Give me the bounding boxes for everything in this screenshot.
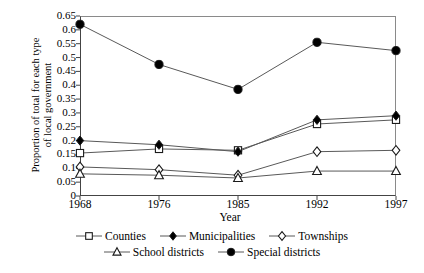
y-tick-label: 0.55: [57, 38, 76, 49]
plot-area: [80, 16, 396, 196]
y-tick-label: 0.5: [62, 52, 76, 63]
data-point-filled-circle: [76, 20, 84, 28]
markers-special-districts: [76, 20, 400, 93]
x-tick-label: 1997: [385, 198, 408, 210]
data-point-open-triangle: [313, 166, 322, 174]
series-layer: [80, 16, 396, 196]
legend-label: Special districts: [247, 246, 320, 258]
data-point-open-triangle: [76, 169, 85, 177]
data-point-open-diamond: [313, 147, 321, 157]
legend-label: Townships: [298, 230, 348, 242]
data-point-open-diamond: [279, 232, 286, 241]
data-point-open-diamond: [392, 146, 400, 156]
legend-row-1: CountiesMunicipalitiesTownships: [0, 228, 424, 244]
data-point-filled-circle: [392, 47, 400, 55]
legend-item-municipalities[interactable]: Municipalities: [160, 230, 255, 242]
x-tick-label: 1976: [148, 198, 171, 210]
y-axis-title: Proportion of total for each type of loc…: [0, 0, 32, 210]
series-special-districts: [80, 24, 396, 89]
legend-marker-icon: [104, 246, 130, 258]
y-tick-label: 0.25: [57, 121, 76, 132]
y-tick-label: 0.35: [57, 93, 76, 104]
y-tick-label: 0.1: [62, 162, 76, 173]
legend-marker-icon: [218, 246, 244, 258]
chart-page: Proportion of total for each type of loc…: [0, 0, 424, 273]
y-tick-label: 0.05: [57, 176, 76, 187]
x-tick-label: 1985: [227, 198, 250, 210]
legend-marker-icon: [269, 230, 295, 242]
data-point-filled-circle: [155, 60, 163, 68]
x-tick-label: 1968: [69, 198, 92, 210]
y-tick-label: 0.2: [62, 135, 76, 146]
legend-marker-icon: [76, 230, 102, 242]
y-tick-label: 0.3: [62, 107, 76, 118]
data-point-filled-circle: [313, 38, 321, 46]
data-point-open-square: [76, 149, 83, 156]
legend-item-school-districts[interactable]: School districts: [104, 246, 204, 258]
legend-label: Municipalities: [189, 230, 255, 242]
legend-row-2: School districtsSpecial districts: [0, 244, 424, 260]
y-tick-label: 0.15: [57, 148, 76, 159]
legend-item-townships[interactable]: Townships: [269, 230, 348, 242]
series-line: [80, 24, 396, 89]
data-point-open-triangle: [392, 166, 401, 174]
data-point-filled-circle: [227, 248, 235, 256]
data-point-open-triangle: [113, 248, 121, 255]
legend-item-counties[interactable]: Counties: [76, 230, 146, 242]
data-point-open-triangle: [155, 171, 164, 179]
legend-label: School districts: [133, 246, 204, 258]
data-point-open-square: [86, 233, 93, 240]
y-tick-label: 0.65: [57, 10, 76, 21]
y-axis-tick-labels: 00.050.10.150.20.250.30.350.40.450.50.55…: [30, 0, 76, 210]
y-tick-label: 0.4: [62, 79, 76, 90]
data-point-filled-diamond: [76, 136, 83, 145]
y-tick-label: 0.45: [57, 65, 76, 76]
y-tick-label: 0.6: [62, 24, 76, 35]
x-tick-label: 1992: [306, 198, 329, 210]
legend-marker-icon: [160, 230, 186, 242]
legend-item-special-districts[interactable]: Special districts: [218, 246, 320, 258]
data-point-filled-diamond: [169, 232, 176, 240]
data-point-filled-circle: [234, 85, 242, 93]
legend-label: Counties: [105, 230, 146, 242]
chart-legend: CountiesMunicipalitiesTownships School d…: [0, 228, 424, 260]
x-axis-title: Year: [0, 211, 424, 223]
